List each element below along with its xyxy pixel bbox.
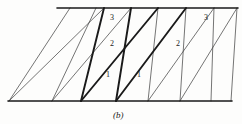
steep-5 bbox=[148, 8, 158, 101]
steep-8 bbox=[231, 8, 237, 101]
region-label: 1 bbox=[106, 71, 110, 79]
region-label: 3 bbox=[204, 14, 208, 22]
bold-parallelogram-group bbox=[81, 8, 186, 101]
diag-1 bbox=[9, 8, 104, 101]
region-label: 2 bbox=[110, 40, 114, 48]
diag-6 bbox=[180, 8, 237, 101]
region-label: 1 bbox=[137, 71, 141, 79]
region-label: 2 bbox=[176, 40, 180, 48]
steep-1 bbox=[9, 8, 70, 101]
steep-4 bbox=[116, 8, 131, 101]
region-label: 3 bbox=[110, 14, 114, 22]
diag-4 bbox=[116, 8, 186, 101]
figure-caption: (b) bbox=[113, 110, 124, 120]
steep-7 bbox=[211, 8, 214, 101]
figure-container: 3 2 1 1 2 3 (b) bbox=[0, 0, 242, 124]
